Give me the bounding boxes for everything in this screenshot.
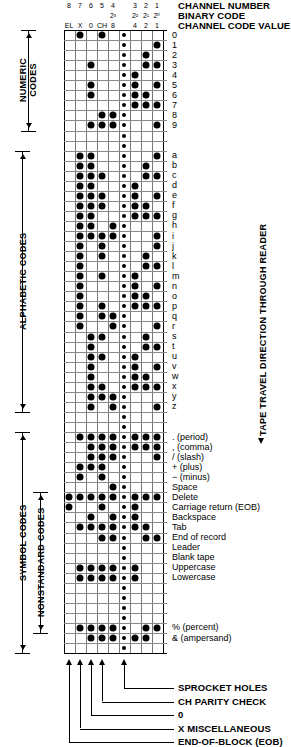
punch-hole-8 [110, 323, 117, 330]
punch-hole-ch [99, 464, 106, 471]
punch-hole-2 [143, 92, 150, 99]
punch-hole-ch [99, 534, 106, 541]
sprocket-hole [122, 626, 126, 630]
punch-hole-0 [88, 333, 95, 340]
punch-hole-0 [88, 172, 95, 179]
section-bracket-cap [21, 131, 36, 132]
section-arrow-up [26, 33, 32, 38]
punch-hole-2 [143, 253, 150, 260]
sprocket-hole [122, 204, 126, 208]
grid-hline [64, 613, 167, 614]
punch-hole-ch [99, 172, 106, 179]
grid-hline [64, 633, 167, 634]
header-labels: 87654321 2³2²2¹2⁰ ELX0CH8421 CHANNEL NUM… [0, 0, 276, 30]
punch-hole-0 [88, 343, 95, 350]
punch-hole-8 [110, 434, 117, 441]
row-label: Leader [172, 543, 200, 552]
sprocket-hole [122, 335, 126, 339]
row-label: m [172, 272, 180, 281]
footnote-leader-vertical [124, 665, 125, 688]
row-label: j [172, 242, 174, 251]
grid-hline [64, 50, 167, 51]
punch-hole-x [77, 303, 84, 310]
punch-hole-2 [143, 624, 150, 631]
punch-hole-ch [99, 202, 106, 209]
row-label: h [172, 221, 177, 230]
punch-hole-8 [110, 624, 117, 631]
punch-hole-8 [110, 233, 117, 240]
punch-hole-ch [99, 494, 106, 501]
sprocket-hole [122, 73, 126, 77]
punch-hole-0 [88, 152, 95, 159]
punch-hole-0 [88, 464, 95, 471]
punch-hole-0 [88, 444, 95, 451]
punch-hole-1 [154, 172, 161, 179]
punch-hole-4 [132, 283, 139, 290]
punch-hole-2 [143, 383, 150, 390]
punch-hole-1 [154, 243, 161, 250]
row-label: Backspace [172, 513, 216, 522]
section-bracket-cap [15, 653, 30, 654]
punch-hole-0 [88, 524, 95, 531]
sprocket-hole [122, 244, 126, 248]
punch-hole-2 [143, 293, 150, 300]
punch-hole-4 [132, 363, 139, 370]
row-label: k [172, 252, 177, 261]
grid-hline [64, 603, 167, 604]
punch-hole-0 [88, 212, 95, 219]
punch-hole-2 [143, 102, 150, 109]
title-channel-code-value: CHANNEL CODE VALUE [178, 21, 290, 31]
punch-hole-1 [154, 233, 161, 240]
sprocket-hole [122, 184, 126, 188]
row-label: Lowercase [172, 573, 216, 582]
punch-hole-x [77, 233, 84, 240]
row-label: 5 [172, 81, 177, 90]
punch-hole-2 [143, 434, 150, 441]
sprocket-hole [122, 465, 126, 469]
sprocket-hole [122, 324, 126, 328]
punch-hole-ch [99, 574, 106, 581]
punch-hole-4 [132, 72, 139, 79]
punch-hole-2 [143, 162, 150, 169]
punch-hole-1 [154, 323, 161, 330]
sprocket-hole [122, 134, 126, 138]
footnote-leader-vertical [69, 665, 70, 742]
sprocket-hole [122, 606, 126, 610]
punch-hole-ch [99, 474, 106, 481]
punch-hole-1 [154, 102, 161, 109]
sprocket-hole [122, 254, 126, 258]
grid-hline [64, 402, 167, 403]
sprocket-hole [122, 646, 126, 650]
section-bracket-cap [15, 151, 30, 152]
punch-hole-4 [132, 303, 139, 310]
punch-hole-4 [132, 504, 139, 511]
row-label: f [172, 201, 175, 210]
punch-hole-4 [132, 82, 139, 89]
punch-hole-ch [99, 524, 106, 531]
punch-hole-4 [132, 202, 139, 209]
section-bracket-cap [33, 492, 48, 493]
sprocket-hole [122, 566, 126, 570]
grid-hline [64, 90, 167, 91]
row-label: Uppercase [172, 563, 216, 572]
punch-hole-2 [143, 202, 150, 209]
section-arrow-down [26, 123, 32, 128]
footnote-leader-horizontal [91, 715, 174, 716]
punch-hole-x [77, 323, 84, 330]
sprocket-hole [122, 586, 126, 590]
section-arrow-down [20, 404, 26, 409]
punch-hole-x [77, 524, 84, 531]
punch-hole-1 [154, 303, 161, 310]
punch-hole-0 [88, 514, 95, 521]
grid-hline [64, 593, 167, 594]
punch-hole-2 [143, 444, 150, 451]
footnote-text: CH PARITY CHECK [178, 697, 266, 707]
punch-hole-1 [154, 343, 161, 350]
row-label: i [172, 232, 174, 241]
punch-hole-4 [132, 373, 139, 380]
section-arrow-up [38, 495, 44, 500]
punch-hole-x [77, 152, 84, 159]
punch-hole-2 [143, 62, 150, 69]
punch-hole-x [77, 182, 84, 189]
grid-hline [64, 141, 167, 142]
